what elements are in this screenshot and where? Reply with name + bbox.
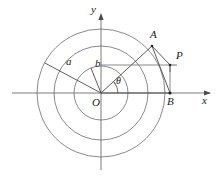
geometry-figure: y x O a b θ A P B [0,0,220,180]
label-point-P: P [176,50,183,61]
label-radius-b: b [95,58,101,69]
label-angle-theta: θ [116,76,121,86]
point-dot-P [169,64,172,67]
right-angle-marker-icon [170,65,177,72]
x-axis-label: x [202,95,207,106]
point-dot-A [151,45,154,48]
y-axis-label: y [91,4,96,15]
ray-b [91,68,101,93]
label-radius-a: a [66,56,72,67]
figure-canvas [0,0,220,180]
segment-A-to-P [152,46,170,65]
label-point-A: A [150,29,157,40]
origin-label: O [92,97,100,108]
y-axis-arrow-icon [98,13,103,20]
segment-A-to-B [152,46,170,93]
label-point-B: B [167,96,174,107]
